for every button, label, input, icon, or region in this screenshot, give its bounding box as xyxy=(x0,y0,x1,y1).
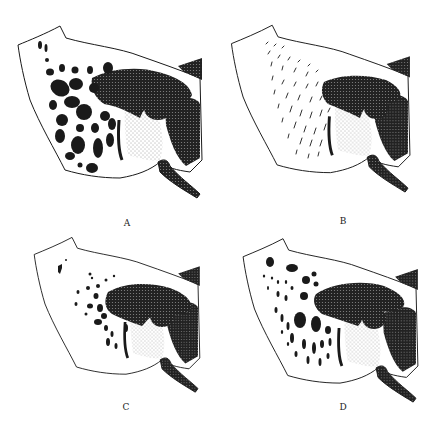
panel-a xyxy=(0,0,216,214)
panel-label-a: A xyxy=(124,218,131,228)
panel-b xyxy=(216,0,432,214)
panel-label-b: B xyxy=(340,216,347,226)
temporal-bone-drawing-a xyxy=(0,0,216,214)
temporal-bone-drawing-c xyxy=(0,214,216,428)
panel-c xyxy=(0,214,216,428)
temporal-bone-drawing-d xyxy=(216,214,432,428)
temporal-bone-drawing-b xyxy=(216,0,432,214)
panel-label-c: C xyxy=(123,402,130,412)
panel-label-d: D xyxy=(339,402,346,412)
panel-d xyxy=(216,214,432,428)
